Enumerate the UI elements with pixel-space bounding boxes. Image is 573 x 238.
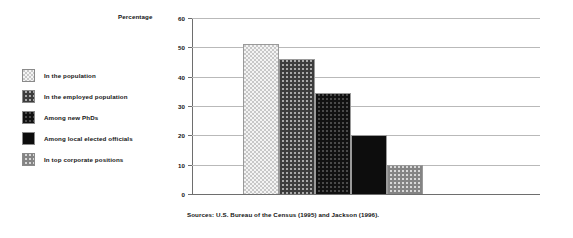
y-axis-tick-label: 40	[178, 73, 185, 80]
y-axis-tick	[188, 106, 192, 107]
y-axis-tick	[188, 135, 192, 136]
legend-swatch-dark-dither-icon	[22, 111, 35, 124]
bar	[387, 165, 423, 194]
plot-area: 0102030405060	[192, 18, 540, 194]
legend-swatch-light-dither-icon	[22, 69, 35, 82]
legend-swatch-mid-light-dither-icon	[22, 153, 35, 166]
bar	[279, 59, 315, 194]
y-axis-tick	[188, 165, 192, 166]
y-axis-tick-label: 30	[178, 103, 185, 110]
y-axis-tick-label: 0	[181, 191, 185, 198]
legend-item-label: In the employed population	[44, 93, 128, 100]
y-axis-tick-label: 60	[178, 15, 185, 22]
legend-item: Among new PhDs	[22, 108, 167, 127]
legend-item: In the population	[22, 66, 167, 85]
y-axis-tick-label: 20	[178, 132, 185, 139]
legend-item-label: Among local elected officials	[44, 135, 133, 142]
y-axis-tick	[188, 47, 192, 48]
legend-item-label: Among new PhDs	[44, 114, 98, 121]
y-axis-title: Percentage	[118, 13, 153, 20]
bar	[351, 135, 387, 194]
legend-swatch-medium-dither-icon	[22, 90, 35, 103]
chart-legend: In the population In the employed popula…	[22, 66, 167, 171]
y-axis-tick-label: 50	[178, 44, 185, 51]
bar-chart-figure: In the population In the employed popula…	[0, 0, 573, 238]
legend-item: In top corporate positions	[22, 150, 167, 169]
bar	[315, 93, 351, 194]
y-axis-tick	[188, 194, 192, 195]
bar-series	[193, 18, 540, 194]
y-axis-tick	[188, 18, 192, 19]
gridline	[192, 194, 540, 195]
source-note: Sources: U.S. Bureau of the Census (1995…	[187, 211, 379, 218]
legend-item-label: In the population	[44, 72, 96, 79]
legend-item-label: In top corporate positions	[44, 156, 123, 163]
y-axis-tick-label: 10	[178, 161, 185, 168]
y-axis-tick	[188, 77, 192, 78]
bar	[243, 44, 279, 194]
legend-swatch-solid-black-icon	[22, 132, 35, 145]
legend-item: Among local elected officials	[22, 129, 167, 148]
legend-item: In the employed population	[22, 87, 167, 106]
